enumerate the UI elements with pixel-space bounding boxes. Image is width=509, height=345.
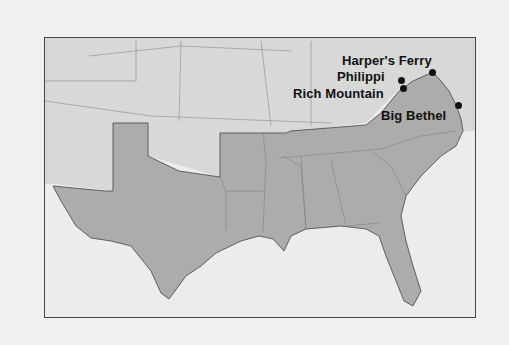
site-dot-rich-mountain	[400, 85, 407, 92]
label-philippi: Philippi	[337, 69, 385, 84]
site-dot-harpers-ferry	[429, 69, 436, 76]
site-dot-big-bethel	[455, 102, 462, 109]
civil-war-map: Harper's Ferry Philippi Rich Mountain Bi…	[44, 37, 476, 318]
map-shapes	[45, 38, 476, 318]
label-rich-mountain: Rich Mountain	[293, 86, 384, 101]
label-big-bethel: Big Bethel	[381, 108, 446, 123]
site-dot-philippi	[398, 77, 405, 84]
label-harpers-ferry: Harper's Ferry	[342, 53, 432, 68]
